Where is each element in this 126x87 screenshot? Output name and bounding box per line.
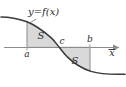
point-label-b: b <box>87 34 93 44</box>
region-label-lower: S <box>72 55 79 66</box>
function-label: y=f(x) <box>27 6 59 17</box>
function-label-leader <box>30 19 36 23</box>
figure-canvas: y=f(x) S S a c b x <box>0 0 126 87</box>
point-label-c: c <box>59 36 64 46</box>
region-label-upper: S <box>38 30 45 41</box>
signed-area-figure: y=f(x) S S a c b x <box>0 0 126 87</box>
point-label-a: a <box>24 49 29 59</box>
x-axis-label: x <box>109 47 115 58</box>
